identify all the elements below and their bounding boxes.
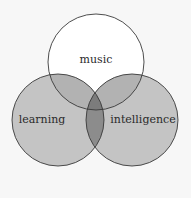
learning-label: learning xyxy=(19,113,66,126)
music-label: music xyxy=(80,53,113,66)
intelligence-label: intelligence xyxy=(110,113,175,126)
venn-diagram: music learning intelligence xyxy=(0,0,191,198)
